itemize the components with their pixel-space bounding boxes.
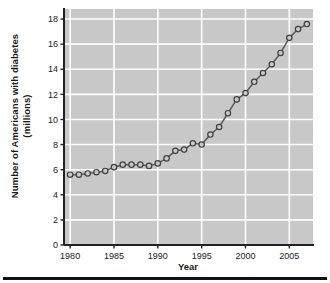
data-point-marker <box>85 171 90 176</box>
x-tick-label: 1980 <box>60 251 80 261</box>
data-point-marker <box>269 62 274 67</box>
footer-rule <box>3 277 327 280</box>
y-tick-label: 0 <box>53 240 58 250</box>
x-axis-tick-labels: 198019851990199520002005 <box>60 251 299 261</box>
data-point-marker <box>234 97 239 102</box>
y-tick-label: 6 <box>53 165 58 175</box>
y-tick-label: 10 <box>48 115 58 125</box>
data-point-marker <box>278 50 283 55</box>
data-point-marker <box>111 164 116 169</box>
y-axis-tick-labels: 024681012141618 <box>48 14 58 250</box>
data-point-marker <box>146 163 151 168</box>
data-point-marker <box>295 26 300 31</box>
data-point-marker <box>173 148 178 153</box>
x-tick-label: 1985 <box>104 251 124 261</box>
data-point-marker <box>129 162 134 167</box>
y-tick-label: 2 <box>53 215 58 225</box>
data-point-marker <box>216 124 221 129</box>
x-tick-label: 2000 <box>235 251 255 261</box>
data-point-marker <box>155 161 160 166</box>
y-tick-label: 4 <box>53 190 58 200</box>
data-point-marker <box>199 142 204 147</box>
data-point-marker <box>190 141 195 146</box>
data-point-marker <box>181 147 186 152</box>
data-point-marker <box>225 110 230 115</box>
data-point-marker <box>287 35 292 40</box>
x-tick-label: 2005 <box>279 251 299 261</box>
x-axis-title: Year <box>62 261 314 272</box>
data-point-marker <box>208 132 213 137</box>
y-tick-label: 14 <box>48 64 58 74</box>
x-tick-label: 1995 <box>192 251 212 261</box>
data-point-marker <box>304 21 309 26</box>
data-point-marker <box>260 70 265 75</box>
y-tick-label: 12 <box>48 90 58 100</box>
y-tick-label: 8 <box>53 140 58 150</box>
data-point-marker <box>164 156 169 161</box>
data-point-marker <box>243 90 248 95</box>
chart-figure: Number of Americans with diabetes (milli… <box>0 0 330 283</box>
x-tick-label: 1990 <box>148 251 168 261</box>
data-point-marker <box>120 162 125 167</box>
data-point-marker <box>252 79 257 84</box>
data-point-marker <box>138 162 143 167</box>
data-point-marker <box>76 172 81 177</box>
y-tick-label: 16 <box>48 39 58 49</box>
line-chart-plot: 024681012141618 198019851990199520002005 <box>0 0 330 283</box>
y-tick-label: 18 <box>48 14 58 24</box>
data-point-marker <box>67 172 72 177</box>
data-point-marker <box>103 168 108 173</box>
data-point-marker <box>94 169 99 174</box>
